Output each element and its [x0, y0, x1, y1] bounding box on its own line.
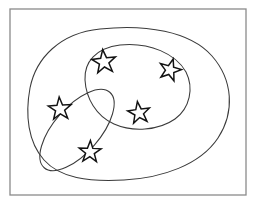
universe-rectangle	[10, 9, 246, 195]
set-diagram-canvas	[0, 0, 256, 204]
diagram-root	[0, 0, 256, 204]
